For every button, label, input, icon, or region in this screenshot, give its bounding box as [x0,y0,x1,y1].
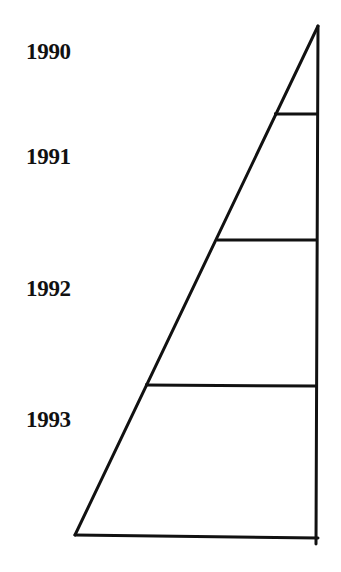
triangle-vertical-side [316,26,318,544]
label-1991: 1991 [26,145,71,168]
label-1993: 1993 [26,408,71,431]
triangle-hypotenuse [75,26,318,535]
triangle-base [75,535,318,538]
label-1992: 1992 [26,277,71,300]
year-triangle-diagram: 1990 1991 1992 1993 [0,0,341,572]
divider-1992-1993 [145,385,316,386]
label-1990: 1990 [26,40,71,63]
